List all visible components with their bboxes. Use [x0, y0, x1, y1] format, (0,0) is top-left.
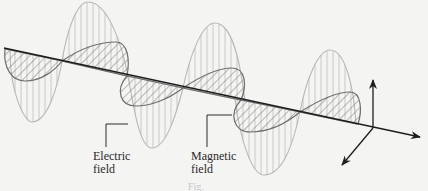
electric-field-label-line2: field	[93, 163, 130, 176]
em-wave-diagram: Electric field Magnetic field Fig.	[0, 0, 428, 191]
magnetic-field-leader	[207, 115, 232, 147]
electric-field-label: Electric field	[93, 150, 130, 176]
magnetic-field-label: Magnetic field	[191, 150, 236, 176]
figure-caption: Fig.	[188, 181, 204, 191]
magnetic-field-label-line2: field	[191, 163, 236, 176]
electric-field-leader	[106, 124, 128, 147]
